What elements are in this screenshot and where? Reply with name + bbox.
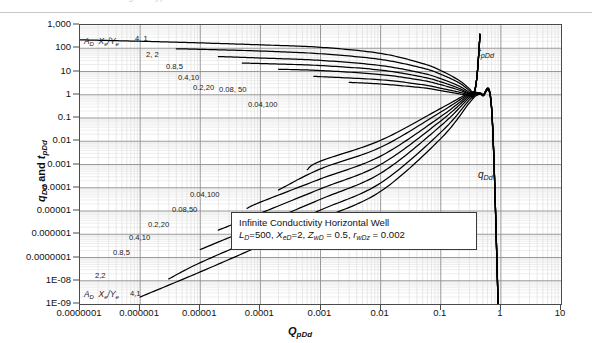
x-tick-mark-5 [380, 305, 381, 310]
x-tick-mark-7 [500, 305, 501, 310]
x-tick-mark-1 [139, 305, 140, 310]
figure-root: Fig. — type curves AD Xe/Ye 4, 1 2, 2 0.… [0, 0, 592, 343]
x-tick-mark-6 [440, 305, 441, 310]
x-tick-mark-8 [560, 305, 561, 310]
x-tick-mark-0 [79, 305, 80, 310]
x-tick-mark-3 [259, 305, 260, 310]
x-axis-ticks: 0.00000010.0000010.000010.00010.0010.010… [0, 0, 592, 343]
x-tick-mark-2 [199, 305, 200, 310]
x-axis-title: QpDd [288, 325, 312, 339]
y-axis-title: qDd and tpDd [35, 106, 49, 236]
x-tick-mark-4 [320, 305, 321, 310]
